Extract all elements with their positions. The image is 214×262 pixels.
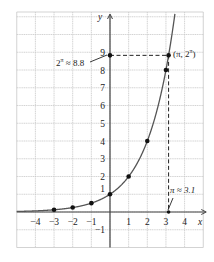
y-annotation: 2π ≈ 8.8	[56, 57, 85, 68]
y-tick-label: 7	[100, 83, 105, 93]
x-tick-label: −2	[68, 217, 78, 227]
x-tick-label: −3	[49, 217, 59, 227]
y-tick-label: 3	[100, 154, 105, 164]
data-point	[52, 207, 57, 212]
y-tick-label: 1	[100, 184, 105, 194]
data-point	[108, 53, 113, 58]
y-tick-label: 6	[100, 101, 105, 111]
data-points	[52, 53, 171, 214]
y-tick-label: 8	[100, 66, 105, 76]
data-point	[70, 205, 75, 210]
x-tick-label: 3	[164, 217, 169, 227]
y-tick-label: 4	[100, 137, 105, 147]
y-tick-label: 5	[100, 119, 105, 129]
y-annotation-arrow	[90, 55, 107, 62]
dashed-guides	[110, 55, 169, 212]
data-point	[108, 192, 113, 197]
x-tick-label: −4	[30, 217, 40, 227]
y-tick-label: −1	[95, 225, 105, 235]
x-annotation: π ≈ 3.1	[170, 185, 195, 195]
data-point	[126, 174, 131, 179]
x-axis-label: x	[197, 217, 203, 227]
y-tick-label: 2	[100, 172, 105, 182]
data-point	[164, 68, 169, 73]
point-label: (π, 2π)	[173, 48, 196, 59]
exponential-graph: −4−3−2−11234−1123456789 y x (π, 2π) 2π ≈…	[0, 0, 214, 262]
exponential-curve	[17, 14, 175, 212]
x-tick-label: 1	[126, 217, 131, 227]
data-point	[166, 53, 171, 58]
data-point	[89, 201, 94, 206]
data-point	[145, 139, 150, 144]
data-point	[167, 210, 171, 214]
x-tick-label: 2	[145, 217, 150, 227]
x-tick-label: 4	[182, 217, 187, 227]
y-axis-label: y	[97, 12, 103, 22]
